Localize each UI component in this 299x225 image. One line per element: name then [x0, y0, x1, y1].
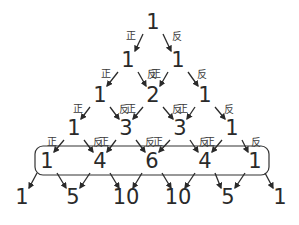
heads-label: 正	[73, 103, 83, 114]
arrow-tails	[163, 34, 171, 51]
tails-label: 反	[224, 104, 234, 115]
arrow-tails	[265, 173, 273, 188]
arrow-heads	[135, 34, 143, 51]
cell-value: 1	[273, 185, 286, 209]
cell-value: 2	[146, 83, 159, 107]
heads-label: 正	[101, 68, 111, 79]
heads-label: 正	[126, 103, 136, 114]
arrow-tails	[110, 107, 119, 119]
pascal-triangle-diagram: 正反正反正反正反正反正反正反正反正反正反 1111211331146411510…	[0, 0, 299, 225]
cell-value: 4	[93, 149, 106, 173]
cell-value: 5	[66, 185, 79, 209]
number-layer: 11112113311464115101051	[15, 10, 286, 209]
cell-value: 1	[40, 149, 53, 173]
tails-label: 反	[172, 31, 182, 42]
cell-value: 1	[93, 83, 106, 107]
cell-value: 1	[146, 10, 159, 34]
cell-value: 4	[198, 149, 211, 173]
heads-label: 正	[153, 136, 163, 147]
heads-label: 正	[178, 103, 188, 114]
heads-label: 正	[126, 30, 136, 41]
cell-value: 3	[119, 116, 132, 140]
cell-value: 6	[145, 149, 158, 173]
heads-label: 正	[151, 68, 161, 79]
cell-value: 10	[113, 185, 140, 209]
heads-label: 正	[99, 136, 109, 147]
cell-value: 5	[221, 185, 234, 209]
heads-label: 正	[205, 136, 215, 147]
cell-value: 1	[198, 83, 211, 107]
arrow-heads	[29, 173, 37, 188]
cell-value: 1	[67, 116, 80, 140]
cell-value: 10	[165, 185, 192, 209]
cell-value: 3	[173, 116, 186, 140]
arrow-tails	[138, 72, 146, 86]
cell-value: 1	[171, 48, 184, 72]
cell-value: 1	[248, 149, 261, 173]
cell-value: 1	[225, 116, 238, 140]
arrow-heads	[187, 107, 195, 119]
tails-label: 反	[197, 69, 207, 80]
arrow-heads	[160, 72, 168, 86]
heads-label: 正	[47, 136, 57, 147]
tails-label: 反	[251, 137, 261, 148]
cell-value: 1	[15, 185, 28, 209]
cell-value: 1	[121, 48, 134, 72]
